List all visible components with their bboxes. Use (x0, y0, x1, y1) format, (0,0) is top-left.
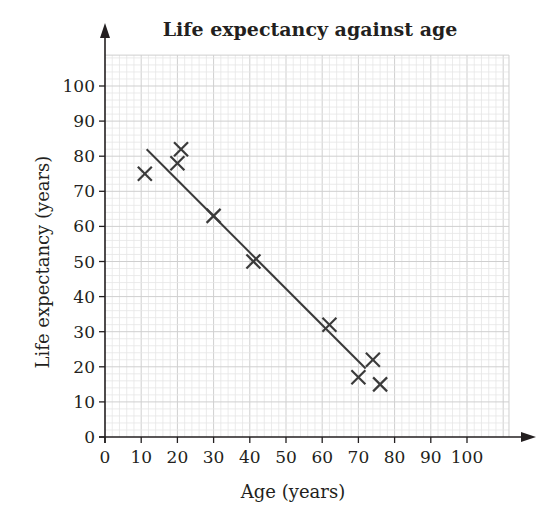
x-tick-label: 20 (167, 447, 189, 467)
x-tick-label: 80 (384, 447, 406, 467)
x-tick-label: 50 (275, 447, 297, 467)
axis-ticks: 0102030405060708090100010203040506070809… (63, 76, 484, 467)
grid (105, 55, 509, 437)
y-tick-label: 90 (73, 111, 95, 131)
y-tick-label: 10 (73, 392, 95, 412)
x-axis-arrow-icon (521, 432, 536, 442)
y-tick-label: 20 (73, 357, 95, 377)
x-marker-icon (138, 167, 152, 181)
x-tick-label: 90 (420, 447, 442, 467)
y-tick-label: 0 (84, 427, 95, 447)
y-tick-label: 100 (63, 76, 95, 96)
x-axis-label: Age (years) (240, 481, 345, 502)
x-tick-label: 100 (451, 447, 483, 467)
y-tick-label: 80 (73, 146, 95, 166)
x-tick-label: 40 (239, 447, 261, 467)
x-tick-label: 30 (203, 447, 225, 467)
x-tick-label: 70 (348, 447, 370, 467)
y-tick-label: 30 (73, 322, 95, 342)
scatter-chart: 0102030405060708090100010203040506070809… (0, 0, 551, 523)
y-tick-label: 60 (73, 216, 95, 236)
y-axis-label: Life expectancy (years) (32, 156, 53, 369)
y-tick-label: 70 (73, 181, 95, 201)
x-tick-label: 0 (100, 447, 111, 467)
chart-title: Life expectancy against age (163, 18, 458, 40)
y-tick-label: 40 (73, 287, 95, 307)
y-axis-arrow-icon (100, 23, 110, 38)
y-tick-label: 50 (73, 252, 95, 272)
x-tick-label: 10 (130, 447, 152, 467)
x-tick-label: 60 (311, 447, 333, 467)
